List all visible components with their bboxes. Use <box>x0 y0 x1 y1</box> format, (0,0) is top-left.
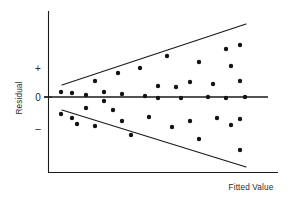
datapoint <box>84 106 88 110</box>
datapoint <box>238 117 242 121</box>
datapoint <box>116 71 120 75</box>
datapoint <box>75 122 79 126</box>
datapoint <box>188 80 192 84</box>
datapoint <box>147 115 151 119</box>
datapoint <box>197 60 201 64</box>
datapoint <box>70 91 74 95</box>
datapoint <box>243 95 247 99</box>
datapoint <box>224 47 228 51</box>
datapoint <box>229 64 233 68</box>
y-tick-label-positive: + <box>35 63 41 74</box>
datapoint <box>188 119 192 123</box>
datapoint <box>238 148 242 152</box>
datapoint <box>224 96 228 100</box>
datapoint <box>93 79 97 83</box>
datapoint <box>102 99 106 103</box>
datapoint <box>238 43 242 47</box>
datapoint <box>156 84 160 88</box>
datapoint <box>197 137 201 141</box>
y-tick-label-zero: 0 <box>35 92 41 103</box>
datapoint <box>138 66 142 70</box>
datapoint <box>102 90 106 94</box>
datapoint <box>93 124 97 128</box>
y-tick-label-negative: – <box>35 123 41 134</box>
datapoint <box>70 116 74 120</box>
residual-plot-figure: + 0 – Residual Fitted Value <box>0 0 291 200</box>
datapoint <box>120 119 124 123</box>
datapoint <box>211 82 215 86</box>
datapoint <box>238 79 242 83</box>
datapoint <box>59 112 63 116</box>
datapoint <box>84 93 88 97</box>
x-axis-title: Fitted Value <box>229 183 274 192</box>
datapoint <box>111 108 115 112</box>
datapoint <box>174 85 178 89</box>
datapoint <box>206 95 210 99</box>
datapoint <box>215 116 219 120</box>
datapoint <box>179 96 183 100</box>
datapoint <box>229 123 233 127</box>
datapoint <box>143 94 147 98</box>
upper-envelope-line <box>62 24 246 85</box>
datapoint <box>156 96 160 100</box>
datapoint <box>165 54 169 58</box>
datapoint <box>170 125 174 129</box>
datapoint <box>59 90 63 94</box>
datapoint <box>129 133 133 137</box>
residual-plot-svg: + 0 – Residual Fitted Value <box>0 0 291 200</box>
datapoint <box>120 92 124 96</box>
y-axis-title: Residual <box>15 81 24 114</box>
